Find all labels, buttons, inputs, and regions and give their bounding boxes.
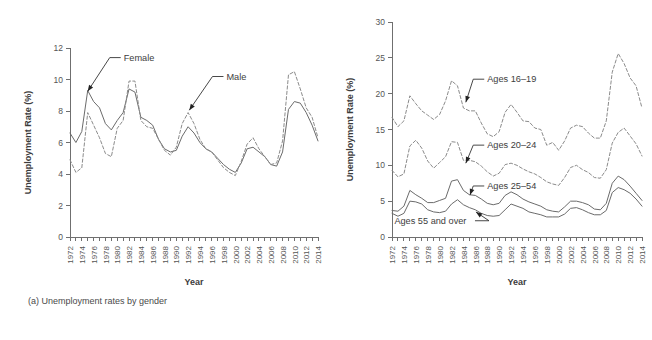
x-axis-title: Year xyxy=(184,277,204,287)
x-tick-label: 2000 xyxy=(555,245,564,263)
chart-panel-a: 0246810121972197419761978198019821984198… xyxy=(0,0,330,340)
x-tick-label: 1998 xyxy=(220,245,229,263)
annotation-leader-1 xyxy=(88,58,121,92)
y-tick-label: 5 xyxy=(380,196,385,206)
x-tick-label: 1984 xyxy=(137,245,146,263)
x-tick-label: 1988 xyxy=(483,245,492,263)
x-tick-label: 2000 xyxy=(232,245,241,263)
y-tick-label: 6 xyxy=(58,138,63,148)
x-tick-label: 1986 xyxy=(149,245,158,263)
y-tick-label: 20 xyxy=(376,89,386,99)
x-tick-label: 1982 xyxy=(125,245,134,263)
annotation-label-4: Ages 55 and over xyxy=(394,216,466,226)
series-line-2 xyxy=(70,72,318,176)
annotation-arrowhead-3 xyxy=(470,188,475,195)
x-tick-label: 1990 xyxy=(172,245,181,263)
y-tick-label: 0 xyxy=(380,232,385,242)
y-tick-label: 4 xyxy=(58,169,63,179)
chart-svg-a: 0246810121972197419761978198019821984198… xyxy=(0,0,330,292)
y-tick-label: 12 xyxy=(54,43,64,53)
x-tick-label: 1988 xyxy=(161,245,170,263)
x-tick-label: 1972 xyxy=(388,245,397,263)
y-axis-title: Unemployment Rate (%) xyxy=(345,78,355,182)
x-tick-label: 2004 xyxy=(579,245,588,263)
annotation-label-2: Male xyxy=(226,72,246,82)
panel-a-caption: (a) Unemployment rates by gender xyxy=(28,296,167,306)
x-tick-label: 1996 xyxy=(208,245,217,263)
y-tick-label: 0 xyxy=(58,232,63,242)
y-axis-title: Unemployment Rate (%) xyxy=(23,91,33,195)
x-tick-label: 1972 xyxy=(66,245,75,263)
x-tick-label: 2008 xyxy=(279,245,288,263)
annotation-arrowhead-1 xyxy=(465,96,470,103)
figure-container: 0246810121972197419761978198019821984198… xyxy=(0,0,652,340)
y-tick-label: 10 xyxy=(54,75,64,85)
x-tick-label: 2006 xyxy=(591,245,600,263)
x-tick-label: 1990 xyxy=(495,245,504,263)
series-line-1 xyxy=(392,54,642,151)
axis-lines xyxy=(70,48,318,237)
annotation-arrowhead-4 xyxy=(476,212,482,217)
x-tick-label: 2010 xyxy=(291,245,300,263)
chart-svg-b: 0510152025301972197419761978198019821984… xyxy=(330,0,652,292)
x-tick-label: 2008 xyxy=(602,245,611,263)
x-tick-label: 1984 xyxy=(460,245,469,263)
x-tick-label: 1996 xyxy=(531,245,540,263)
y-tick-label: 15 xyxy=(376,125,386,135)
y-tick-label: 25 xyxy=(376,53,386,63)
x-tick-label: 1986 xyxy=(472,245,481,263)
y-tick-label: 30 xyxy=(376,17,386,27)
x-tick-label: 2014 xyxy=(638,245,647,263)
y-tick-label: 10 xyxy=(376,160,386,170)
x-tick-label: 2014 xyxy=(314,245,323,263)
annotation-label-3: Ages 25–54 xyxy=(487,181,536,191)
x-tick-label: 1994 xyxy=(196,245,205,263)
annotation-label-1: Female xyxy=(124,53,155,63)
series-line-1 xyxy=(70,89,318,172)
x-tick-label: 1992 xyxy=(184,245,193,263)
x-tick-label: 1998 xyxy=(543,245,552,263)
x-tick-label: 2002 xyxy=(567,245,576,263)
x-tick-label: 2010 xyxy=(614,245,623,263)
x-tick-label: 1976 xyxy=(412,245,421,263)
x-tick-label: 1980 xyxy=(113,245,122,263)
x-tick-label: 1994 xyxy=(519,245,528,263)
x-tick-label: 1980 xyxy=(436,245,445,263)
x-tick-label: 2012 xyxy=(302,245,311,263)
x-tick-label: 1982 xyxy=(448,245,457,263)
x-tick-label: 1976 xyxy=(90,245,99,263)
x-tick-label: 2006 xyxy=(267,245,276,263)
annotation-arrowhead-2 xyxy=(189,104,194,110)
x-tick-label: 1978 xyxy=(424,245,433,263)
x-tick-label: 2002 xyxy=(243,245,252,263)
annotation-label-1: Ages 16–19 xyxy=(487,74,536,84)
chart-panel-b: 0510152025301972197419761978198019821984… xyxy=(330,0,652,340)
x-tick-label: 2012 xyxy=(626,245,635,263)
y-tick-label: 2 xyxy=(58,201,63,211)
annotation-arrowhead-1 xyxy=(88,85,93,92)
x-tick-label: 1974 xyxy=(78,245,87,263)
annotation-arrowhead-2 xyxy=(466,157,471,164)
x-tick-label: 1974 xyxy=(400,245,409,263)
x-tick-label: 1978 xyxy=(102,245,111,263)
annotation-leader-2 xyxy=(189,77,223,111)
x-tick-label: 2004 xyxy=(255,245,264,263)
x-tick-label: 1992 xyxy=(507,245,516,263)
series-line-2 xyxy=(392,128,642,185)
y-tick-label: 8 xyxy=(58,106,63,116)
x-axis-title: Year xyxy=(507,277,527,287)
annotation-label-2: Ages 20–24 xyxy=(487,140,536,150)
